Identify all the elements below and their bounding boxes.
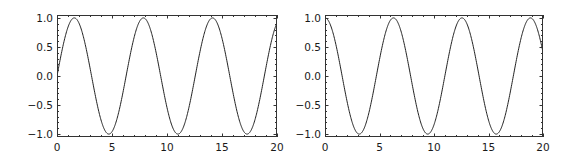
y-tick-label: 0.0 xyxy=(304,70,321,82)
y-tick-label: −0.5 xyxy=(28,99,54,111)
x-tick-label: 0 xyxy=(54,141,61,153)
left-plot-sin: 051015201.00.50.0−0.5−1.0 xyxy=(28,12,284,153)
x-tick-label: 20 xyxy=(270,141,283,153)
y-tick-label: 0.0 xyxy=(36,70,53,82)
figure-canvas: 051015201.00.50.0−0.5−1.0 051015201.00.5… xyxy=(0,0,574,161)
data-line-sin xyxy=(57,18,277,134)
y-tick-label: 0.5 xyxy=(304,41,321,53)
x-tick-label: 5 xyxy=(376,141,383,153)
x-tick-label: 15 xyxy=(482,141,495,153)
axes-frame xyxy=(58,16,277,137)
axes-frame xyxy=(326,16,543,137)
right-plot-cos: 051015201.00.50.0−0.5−1.0 xyxy=(296,12,550,153)
y-tick-label: −1.0 xyxy=(296,128,322,140)
x-tick-label: 0 xyxy=(322,141,329,153)
data-line-cos xyxy=(325,18,543,134)
y-tick-label: 0.5 xyxy=(36,41,53,53)
y-tick-label: −1.0 xyxy=(28,128,54,140)
x-tick-label: 10 xyxy=(160,141,173,153)
x-tick-label: 15 xyxy=(215,141,228,153)
y-tick-label: −0.5 xyxy=(296,99,322,111)
y-tick-label: 1.0 xyxy=(36,12,53,24)
y-tick-label: 1.0 xyxy=(304,12,321,24)
x-tick-label: 20 xyxy=(536,141,549,153)
x-tick-label: 5 xyxy=(109,141,116,153)
x-tick-label: 10 xyxy=(427,141,440,153)
